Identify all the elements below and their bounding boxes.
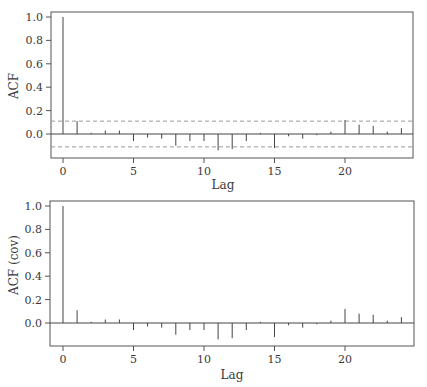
y-tick-label: 0.2 xyxy=(26,105,44,118)
y-tick-label: 0.0 xyxy=(25,317,43,330)
x-tick-label: 20 xyxy=(338,165,352,178)
acf-stems xyxy=(63,206,401,339)
x-tick-label: 0 xyxy=(60,353,67,366)
x-tick-label: 5 xyxy=(130,165,137,178)
acf-cov-chart: 0.00.20.40.60.81.0 05101520 ACF (cov) La… xyxy=(0,193,427,387)
y-axis: 0.00.20.40.60.81.0 xyxy=(26,11,52,141)
y-tick-label: 0.6 xyxy=(26,58,44,71)
x-tick-label: 15 xyxy=(268,165,282,178)
y-tick-label: 0.8 xyxy=(26,34,44,47)
y-tick-label: 1.0 xyxy=(26,11,44,24)
x-tick-label: 0 xyxy=(60,165,67,178)
y-tick-label: 0.4 xyxy=(26,81,44,94)
y-axis: 0.00.20.40.60.81.0 xyxy=(25,200,51,330)
x-axis-label: Lag xyxy=(212,178,235,192)
y-tick-label: 1.0 xyxy=(25,200,43,213)
x-axis: 05101520 xyxy=(60,158,353,178)
acf-chart-panel: 0.00.20.40.60.81.0 05101520 ACF Lag xyxy=(0,0,427,193)
y-tick-label: 0.8 xyxy=(25,223,43,236)
x-tick-label: 15 xyxy=(268,353,282,366)
y-tick-label: 0.4 xyxy=(25,270,43,283)
x-tick-label: 10 xyxy=(197,165,211,178)
x-tick-label: 10 xyxy=(197,353,211,366)
y-tick-label: 0.0 xyxy=(26,128,44,141)
x-axis: 05101520 xyxy=(60,346,353,366)
y-tick-label: 0.2 xyxy=(25,294,43,307)
x-tick-label: 5 xyxy=(130,353,137,366)
acf-stems xyxy=(63,17,401,150)
acf-cov-chart-panel: 0.00.20.40.60.81.0 05101520 ACF (cov) La… xyxy=(0,193,427,387)
y-axis-label: ACF xyxy=(7,73,21,100)
acf-chart: 0.00.20.40.60.81.0 05101520 ACF Lag xyxy=(0,0,427,193)
y-axis-label: ACF (cov) xyxy=(7,235,21,296)
x-tick-label: 20 xyxy=(338,353,352,366)
y-tick-label: 0.6 xyxy=(25,247,43,260)
x-axis-label: Lag xyxy=(221,368,244,382)
